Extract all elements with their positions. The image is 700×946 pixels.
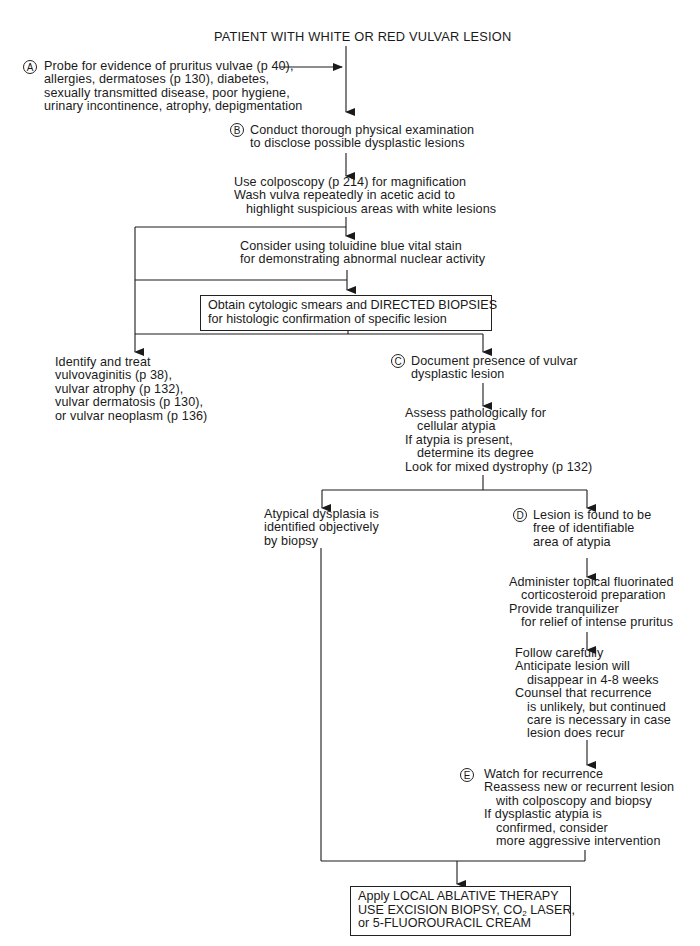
local-ablative-therapy-box: Apply LOCAL ABLATIVE THERAPY USE EXCISIO… — [350, 886, 571, 936]
flowchart: PATIENT WITH WHITE OR RED VULVAR LESION … — [0, 0, 700, 946]
assess-line: Look for mixed dystrophy (p 132) — [405, 461, 592, 474]
title-text: PATIENT WITH WHITE OR RED VULVAR LESION — [214, 30, 511, 43]
directed-biopsies-box: Obtain cytologic smears and DIRECTED BIO… — [200, 295, 492, 331]
final-box-line2-post: LASER, — [527, 903, 575, 917]
step-d-line: free of identifiable — [533, 522, 651, 535]
follow-line: is unlikely, but continued — [515, 701, 671, 714]
toluidine-node: Consider using toluidine blue vital stai… — [240, 240, 485, 267]
step-a-line: urinary incontinence, atrophy, depigment… — [44, 100, 302, 113]
colposcopy-line: Wash vulva repeatedly in acetic acid to — [234, 189, 496, 202]
atypical-dysplasia-node: Atypical dysplasia is identified objecti… — [264, 508, 379, 548]
step-e-line: Reassess new or recurrent lesion — [484, 781, 674, 794]
assess-line: Assess pathologically for — [405, 407, 592, 420]
flowchart-title: PATIENT WITH WHITE OR RED VULVAR LESION — [214, 30, 511, 43]
step-c-node: Document presence of vulvar dysplastic l… — [411, 355, 578, 382]
follow-line: disappear in 4-8 weeks — [515, 674, 671, 687]
step-b-line: to disclose possible dysplastic lesions — [250, 137, 474, 150]
step-a-line: sexually transmitted disease, poor hygie… — [44, 87, 302, 100]
biopsy-box-line: Obtain cytologic smears and DIRECTED BIO… — [208, 299, 484, 313]
biopsy-box-line: for histologic confirmation of specific … — [208, 313, 484, 327]
step-e-line: more aggressive intervention — [484, 835, 674, 848]
administer-line: corticosteroid preparation — [509, 589, 674, 602]
colposcopy-node: Use colposcopy (p 214) for magnification… — [234, 176, 496, 216]
follow-line: Follow carefully — [515, 647, 671, 660]
final-box-line2-pre: USE EXCISION BIOPSY, CO — [358, 903, 522, 917]
step-a-badge: A — [23, 60, 37, 74]
step-e-line: Watch for recurrence — [484, 768, 674, 781]
step-e-line: with colposcopy and biopsy — [484, 795, 674, 808]
assess-line: If atypia is present, — [405, 434, 592, 447]
step-e-badge: E — [460, 768, 474, 782]
identify-line: Identify and treat — [55, 356, 207, 369]
administer-node: Administer topical fluorinated corticost… — [509, 576, 674, 630]
identify-line: or vulvar neoplasm (p 136) — [55, 410, 207, 423]
administer-line: Provide tranquilizer — [509, 603, 674, 616]
toluidine-line: for demonstrating abnormal nuclear activ… — [240, 253, 485, 266]
atypical-line: identified objectively — [264, 521, 379, 534]
final-box-line: USE EXCISION BIOPSY, CO2 LASER, — [358, 904, 563, 918]
identify-treat-node: Identify and treat vulvovaginitis (p 38)… — [55, 356, 207, 423]
step-a-line: Probe for evidence of pruritus vulvae (p… — [44, 60, 302, 73]
follow-line: Counsel that recurrence — [515, 687, 671, 700]
administer-line: for relief of intense pruritus — [509, 616, 674, 629]
identify-line: vulvar atrophy (p 132), — [55, 383, 207, 396]
step-a-line: allergies, dermatoses (p 130), diabetes, — [44, 73, 302, 86]
identify-line: vulvar dermatosis (p 130), — [55, 396, 207, 409]
atypical-line: by biopsy — [264, 535, 379, 548]
step-b-node: Conduct thorough physical examination to… — [250, 124, 474, 151]
step-a-node: Probe for evidence of pruritus vulvae (p… — [44, 60, 302, 114]
administer-line: Administer topical fluorinated — [509, 576, 674, 589]
identify-line: vulvovaginitis (p 38), — [55, 369, 207, 382]
step-c-line: dysplastic lesion — [411, 368, 578, 381]
assess-line: cellular atypia — [405, 420, 592, 433]
final-box-line: Apply LOCAL ABLATIVE THERAPY — [358, 890, 563, 904]
step-e-node: Watch for recurrence Reassess new or rec… — [484, 768, 674, 848]
colposcopy-line: highlight suspicious areas with white le… — [234, 203, 496, 216]
step-d-line: Lesion is found to be — [533, 509, 651, 522]
follow-line: care is necessary in case — [515, 714, 671, 727]
colposcopy-line: Use colposcopy (p 214) for magnification — [234, 176, 496, 189]
assess-line: determine its degree — [405, 447, 592, 460]
step-d-badge: D — [513, 508, 527, 522]
step-b-badge: B — [230, 123, 244, 137]
step-c-line: Document presence of vulvar — [411, 355, 578, 368]
step-c-badge: C — [391, 354, 405, 368]
step-d-line: area of atypia — [533, 536, 651, 549]
step-e-line: If dysplastic atypia is — [484, 808, 674, 821]
toluidine-line: Consider using toluidine blue vital stai… — [240, 240, 485, 253]
step-b-line: Conduct thorough physical examination — [250, 124, 474, 137]
assess-node: Assess pathologically for cellular atypi… — [405, 407, 592, 474]
step-e-line: confirmed, consider — [484, 822, 674, 835]
follow-node: Follow carefully Anticipate lesion will … — [515, 647, 671, 741]
follow-line: Anticipate lesion will — [515, 660, 671, 673]
atypical-line: Atypical dysplasia is — [264, 508, 379, 521]
follow-line: lesion does recur — [515, 727, 671, 740]
step-d-node: Lesion is found to be free of identifiab… — [533, 509, 651, 549]
final-box-line: or 5-FLUOROURACIL CREAM — [358, 917, 563, 931]
